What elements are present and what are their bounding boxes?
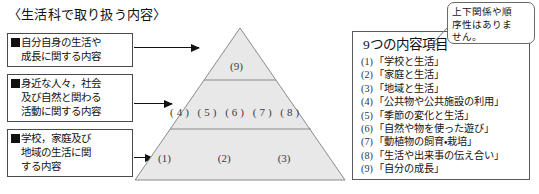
list-item: (1)「学校と生活」 xyxy=(361,55,504,68)
description-line: 学校，家庭及び xyxy=(11,132,129,146)
item-number: (7) xyxy=(361,136,373,147)
description-box-school-home-community: 学校，家庭及び 地域の生活に関 する内容 xyxy=(7,129,133,177)
list-item: (6)「自然や物を使った遊び」 xyxy=(361,122,504,135)
list-item: (5)「季節の変化と生活」 xyxy=(361,109,504,122)
item-number: (3) xyxy=(361,83,373,94)
callout-line: 序性はありま xyxy=(452,19,530,32)
item-text: 「学校と生活」 xyxy=(374,56,444,67)
pyramid-tier-middle-label: (4) (5) (6) (7) (8) xyxy=(170,106,302,119)
content-items-list: (1)「学校と生活」 (2)「家庭と生活」 (3)「地域と生活」 (4)「公共物… xyxy=(361,55,504,176)
diagram-canvas: 〈生活科で取り扱う内容〉 自分自身の生活や 成長に関する内容 身近な人々，社会 … xyxy=(0,0,539,194)
pyramid-tier-top-label: (9) xyxy=(230,60,243,73)
square-bullet-icon xyxy=(11,134,20,143)
item-number: (6) xyxy=(361,123,373,134)
item-number: (2) xyxy=(361,69,373,80)
pyramid-bottom-number: (2) xyxy=(218,152,231,165)
item-text: 「家庭と生活」 xyxy=(374,69,444,80)
item-number: (4) xyxy=(361,96,373,107)
item-text: 「自然や物を使った遊び」 xyxy=(374,123,494,134)
description-line: 成長に関する内容 xyxy=(11,50,129,64)
description-line: 及び自然と関わる xyxy=(11,91,129,105)
list-item: (8)「生活や出来事の伝え合い」 xyxy=(361,149,504,162)
pyramid-bottom-number: (1) xyxy=(158,152,171,165)
item-text: 「公共物や公共施設の利用」 xyxy=(374,96,504,107)
item-number: (8) xyxy=(361,150,373,161)
list-item: (9)「自分の成長」 xyxy=(361,162,504,175)
pyramid-bottom-number: (3) xyxy=(278,152,291,165)
description-box-people-society-nature: 身近な人々，社会 及び自然と関わる 活動に関する内容 xyxy=(7,74,133,122)
callout-note: 上下関係や順 序性はありま せん。 xyxy=(447,2,535,44)
list-item: (7)「動植物の飼育・栽培」 xyxy=(361,135,504,148)
page-title: 〈生活科で取り扱う内容〉 xyxy=(8,6,166,23)
square-bullet-icon xyxy=(11,38,20,47)
list-item: (3)「地域と生活」 xyxy=(361,82,504,95)
item-text: 「地域と生活」 xyxy=(374,83,444,94)
list-item: (2)「家庭と生活」 xyxy=(361,68,504,81)
item-number: (1) xyxy=(361,56,373,67)
square-bullet-icon xyxy=(11,79,20,88)
item-number: (5) xyxy=(361,110,373,121)
callout-line: せん。 xyxy=(452,31,530,44)
description-line: 地域の生活に関 xyxy=(11,146,129,160)
item-text: 「動植物の飼育・栽培」 xyxy=(374,136,477,147)
description-line: 活動に関する内容 xyxy=(11,105,129,119)
content-items-panel: 9つの内容項目 (1)「学校と生活」 (2)「家庭と生活」 (3)「地域と生活」… xyxy=(352,31,530,180)
item-text: 「自分の成長」 xyxy=(374,163,444,174)
description-line: 身近な人々，社会 xyxy=(11,77,129,91)
pyramid-diagram: (9) (4) (5) (6) (7) (8) (1)(2)(3) xyxy=(134,24,350,184)
list-item: (4)「公共物や公共施設の利用」 xyxy=(361,95,504,108)
description-line: 自分自身の生活や xyxy=(11,36,129,50)
description-line: する内容 xyxy=(11,160,129,174)
item-text: 「季節の変化と生活」 xyxy=(374,110,474,121)
item-number: (9) xyxy=(361,163,373,174)
pyramid-tier-bottom-label: (1)(2)(3) xyxy=(158,152,290,165)
callout-line: 上下関係や順 xyxy=(452,6,530,19)
description-box-self-growth: 自分自身の生活や 成長に関する内容 xyxy=(7,33,133,67)
item-text: 「生活や出来事の伝え合い」 xyxy=(374,150,504,161)
